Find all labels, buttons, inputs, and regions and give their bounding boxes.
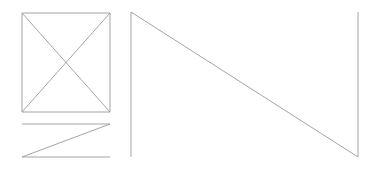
z-diagonal (22, 124, 110, 157)
drawing-canvas (0, 0, 383, 173)
n-shape (131, 12, 358, 157)
placeholder-square-with-x (22, 13, 110, 112)
line-drawing (0, 0, 383, 173)
figure-layer (22, 12, 358, 157)
z-shape (22, 124, 110, 157)
n-diagonal (131, 12, 358, 157)
